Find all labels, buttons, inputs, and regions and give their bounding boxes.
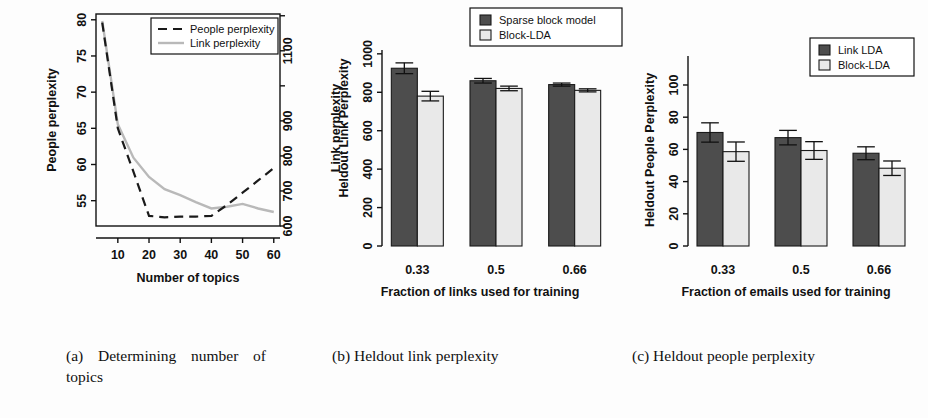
category-label: 0.33: [711, 263, 735, 277]
bar: [470, 81, 496, 246]
panel-b-legend: Sparse block model Block-LDA: [470, 8, 622, 46]
caption-b: (b) Heldout link perplexity: [332, 345, 552, 366]
y-tick-label-right: 1100: [281, 37, 295, 64]
panel-b-svg: 02004006008001000 0.330.50.66 Heldout Li…: [330, 0, 630, 330]
bars-group: [391, 63, 600, 246]
bar: [391, 68, 417, 246]
x-axis-label: Number of topics: [137, 271, 240, 285]
x-tick-label: 50: [236, 248, 250, 262]
y-tick-label: 400: [361, 159, 375, 180]
panel-c-legend: Link LDA Block-LDA: [810, 38, 914, 76]
panel-b-bar-chart: 02004006008001000 0.330.50.66 Heldout Li…: [330, 0, 630, 330]
caption-c: (c) Heldout people perplexity: [632, 345, 832, 366]
legend-swatch-block-lda: [819, 60, 830, 70]
y-tick-label: 0: [667, 242, 681, 249]
y-axis-label: Heldout People Perplexity: [643, 73, 657, 227]
panel-c-bar-chart: 020406080100 0.330.50.66 Heldout People …: [630, 0, 928, 330]
legend-label-link-perplexity: Link perplexity: [190, 37, 261, 49]
y-tick-label: 80: [667, 110, 681, 124]
y-axis-left-label: People perplexity: [45, 68, 59, 172]
y-tick-label-right: 700: [281, 180, 295, 201]
x-axis-label: Fraction of links used for training: [381, 285, 580, 299]
bar: [853, 153, 879, 246]
legend-label-sparse-block-model: Sparse block model: [499, 14, 596, 26]
bar: [575, 90, 601, 246]
bar: [496, 88, 522, 246]
bar: [697, 132, 723, 246]
legend-swatch-block-lda: [480, 30, 491, 40]
category-labels: 0.330.50.66: [405, 263, 587, 277]
x-axis-ticks: 102030405060: [96, 238, 281, 262]
y-tick-label-left: 65: [75, 121, 89, 135]
y-axis: 020406080100: [667, 56, 688, 249]
y-tick-label: 200: [361, 197, 375, 218]
y-axis: 02004006008001000: [361, 40, 382, 250]
bar: [549, 85, 575, 246]
x-tick-label: 40: [204, 248, 218, 262]
x-axis-label: Fraction of emails used for training: [681, 285, 890, 299]
y-tick-label-left: 55: [75, 194, 89, 208]
x-tick-label: 10: [111, 248, 125, 262]
y-axis-left-ticks: 556065707580: [75, 13, 96, 208]
y-tick-label: 60: [667, 142, 681, 156]
legend-label-block-lda: Block-LDA: [499, 29, 552, 41]
panel-c-svg: 020406080100 0.330.50.66 Heldout People …: [630, 0, 928, 330]
legend-label-people-perplexity: People perplexity: [190, 23, 275, 35]
panel-a-svg: 556065707580 6007008009001100 1020304050…: [36, 0, 356, 330]
bar: [879, 168, 905, 246]
category-label: 0.66: [562, 263, 586, 277]
y-axis-right-ticks: 6007008009001100: [280, 16, 295, 237]
y-tick-label-right: 600: [281, 216, 295, 237]
y-tick-label: 800: [361, 82, 375, 103]
bar: [801, 151, 827, 246]
category-label: 0.66: [867, 263, 891, 277]
figure-root: 556065707580 6007008009001100 1020304050…: [0, 0, 928, 418]
y-tick-label-right: 900: [281, 110, 295, 131]
bar: [723, 152, 749, 246]
category-label: 0.33: [405, 263, 429, 277]
y-tick-label: 600: [361, 120, 375, 141]
y-tick-label-left: 60: [75, 157, 89, 171]
y-tick-label-left: 75: [75, 49, 89, 63]
legend-swatch-link-lda: [819, 45, 830, 55]
y-tick-label-right: 800: [281, 145, 295, 166]
bar: [775, 138, 801, 246]
y-tick-label-left: 70: [75, 85, 89, 99]
panel-a-legend: People perplexity Link perplexity: [151, 18, 278, 54]
y-tick-label: 0: [361, 242, 375, 249]
legend-label-link-lda: Link LDA: [838, 44, 883, 56]
caption-a: (a) Determining number of topics: [66, 345, 266, 388]
bars-group: [697, 123, 905, 246]
legend-swatch-sparse-block-model: [480, 15, 491, 25]
x-tick-label: 30: [173, 248, 187, 262]
y-tick-label-left: 80: [75, 13, 89, 27]
y-tick-label: 20: [667, 207, 681, 221]
y-tick-label: 100: [667, 75, 681, 96]
x-tick-label: 20: [142, 248, 156, 262]
panel-a-line-chart: 556065707580 6007008009001100 1020304050…: [36, 0, 356, 330]
bar: [417, 96, 443, 246]
category-label: 0.5: [792, 263, 809, 277]
legend-label-block-lda: Block-LDA: [838, 59, 891, 71]
y-axis-label: Heldout Link Perplexity: [337, 58, 351, 197]
y-tick-label: 1000: [361, 40, 375, 68]
category-labels: 0.330.50.66: [711, 263, 891, 277]
caption-row: (a) Determining number of topics (b) Hel…: [0, 345, 928, 415]
y-tick-label: 40: [667, 175, 681, 189]
x-tick-label: 60: [267, 248, 281, 262]
category-label: 0.5: [487, 263, 504, 277]
